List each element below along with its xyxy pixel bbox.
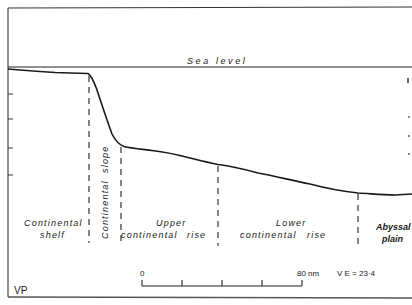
svg-text:plain: plain bbox=[381, 234, 404, 244]
frame-top bbox=[8, 7, 412, 8]
svg-text:continental: continental bbox=[240, 230, 297, 240]
svg-text:Abyssal: Abyssal bbox=[375, 222, 411, 232]
seafloor-profile bbox=[8, 69, 412, 195]
depth-ticks bbox=[8, 94, 13, 175]
svg-text:shelf: shelf bbox=[40, 230, 65, 240]
svg-text:Continental: Continental bbox=[100, 180, 110, 239]
vertical-exaggeration-label: V E = 23·4 bbox=[337, 269, 376, 278]
sea-level-label: Sea level bbox=[187, 56, 247, 66]
scale-start-label: 0 bbox=[140, 269, 145, 278]
zone-label-continental-shelf: Continental shelf bbox=[24, 218, 83, 240]
svg-text:Continental: Continental bbox=[24, 218, 83, 228]
svg-text:Upper: Upper bbox=[156, 218, 187, 228]
scale-bar: 0 80 nm bbox=[140, 269, 320, 286]
zone-label-continental-slope: Continental slope bbox=[100, 145, 110, 239]
svg-text:continental: continental bbox=[121, 230, 178, 240]
zone-label-abyssal-plain: Abyssal plain bbox=[375, 222, 411, 244]
zone-label-lower-continental-rise: Lower continental rise bbox=[240, 218, 326, 240]
svg-text:slope: slope bbox=[100, 145, 110, 173]
svg-text:rise: rise bbox=[187, 230, 206, 240]
frame-bottom bbox=[8, 297, 412, 298]
zone-label-upper-continental-rise: Upper continental rise bbox=[121, 218, 206, 240]
svg-text:Lower: Lower bbox=[276, 218, 307, 228]
diagram-canvas: Sea level Continental shelf Continental … bbox=[0, 0, 412, 305]
scale-end-label: 80 nm bbox=[297, 269, 320, 278]
corner-label-vp: VP bbox=[14, 285, 28, 296]
right-ticks bbox=[407, 78, 410, 155]
svg-text:rise: rise bbox=[307, 230, 326, 240]
zone-boundaries bbox=[89, 76, 358, 246]
